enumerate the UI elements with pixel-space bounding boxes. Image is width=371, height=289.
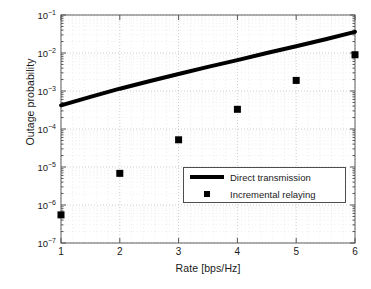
chart-figure: Outage probability 10−1 10−2 10−3 10−4 1… (0, 0, 371, 289)
data-point (293, 77, 300, 84)
data-point (234, 106, 241, 113)
legend-entry-incremental-relaying: Incremental relaying (184, 185, 347, 203)
data-point (58, 211, 65, 218)
legend-line-swatch-icon (184, 168, 230, 186)
data-point (116, 170, 123, 177)
chart-legend: Direct transmission Incremental relaying (183, 167, 346, 203)
data-point (175, 136, 182, 143)
legend-label: Direct transmission (230, 172, 311, 183)
legend-marker-swatch-icon (184, 185, 230, 203)
x-tick-label: 5 (284, 246, 308, 257)
x-tick-label: 6 (343, 246, 367, 257)
grid-lines (61, 15, 355, 243)
x-tick-label: 2 (108, 246, 132, 257)
x-tick-label: 1 (49, 246, 73, 257)
x-tick-label: 3 (167, 246, 191, 257)
legend-entry-direct-transmission: Direct transmission (184, 168, 347, 186)
x-axis-label: Rate [bps/Hz] (61, 262, 355, 274)
series-line-0 (61, 32, 355, 105)
data-point (352, 51, 359, 58)
legend-label: Incremental relaying (230, 189, 316, 200)
x-tick-label: 4 (225, 246, 249, 257)
